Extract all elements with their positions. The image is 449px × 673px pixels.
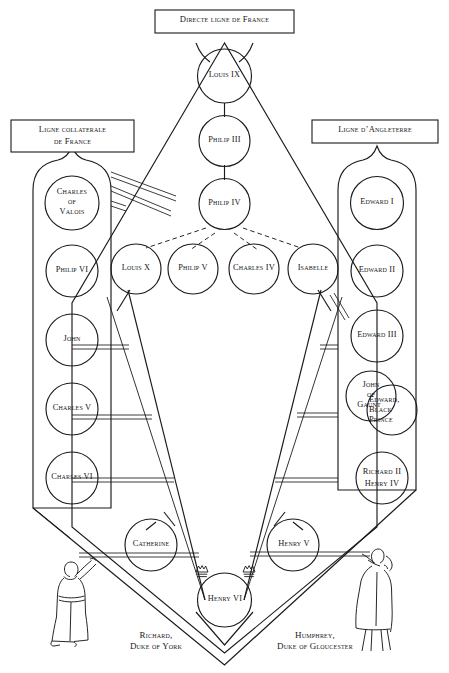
left-box-rect bbox=[11, 120, 134, 152]
title-box-rect bbox=[155, 10, 294, 33]
genealogy-diagram: Directe ligne de France Ligne collateral… bbox=[0, 0, 449, 673]
label-boxes bbox=[0, 0, 449, 673]
right-box-rect bbox=[312, 120, 438, 143]
